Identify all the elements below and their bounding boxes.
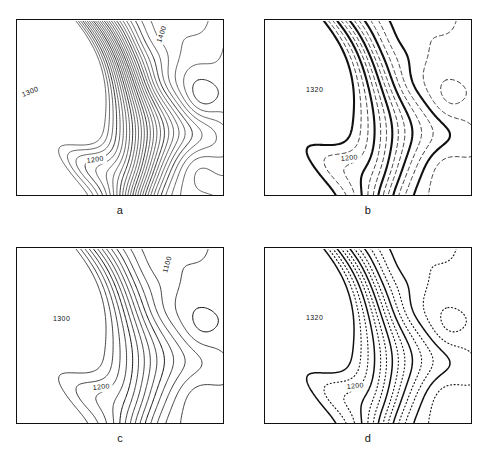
- elevation-labels-b: 13201200: [265, 20, 473, 197]
- elevation-label: 1320: [306, 86, 323, 93]
- elevation-labels-c: 130012001100: [17, 248, 225, 425]
- panel-frame-b: 13201200: [264, 19, 472, 196]
- elevation-labels-d: 13201200: [265, 248, 473, 425]
- panel-frame-d: 13201200: [264, 247, 472, 424]
- elevation-label: 1300: [53, 315, 70, 322]
- contour-panel-a: 130012001400a: [16, 19, 224, 220]
- panel-frame-c: 130012001100: [16, 247, 224, 424]
- panel-frame-a: 130012001400: [16, 19, 224, 196]
- contour-panel-c: 130012001100c: [16, 247, 224, 448]
- contour-panel-b: 13201200b: [264, 19, 472, 220]
- contour-figure: 130012001400a13201200b130012001100c13201…: [0, 0, 493, 453]
- panel-letter-d: d: [264, 432, 472, 444]
- elevation-labels-a: 130012001400: [17, 20, 225, 197]
- panel-letter-c: c: [16, 432, 224, 444]
- panel-letter-b: b: [264, 204, 472, 216]
- contour-panel-d: 13201200d: [264, 247, 472, 448]
- elevation-label: 1320: [306, 314, 323, 321]
- panel-letter-a: a: [16, 204, 224, 216]
